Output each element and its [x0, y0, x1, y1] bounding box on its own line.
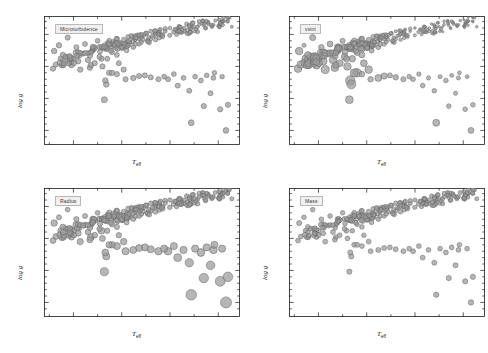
plot-area-mass: 65006000550050003.03.54.04.5: [289, 188, 485, 317]
x-axis-label-panel3: Teff: [132, 330, 141, 339]
y-axis-label-panel3: log g: [16, 266, 24, 280]
panel-label-radius: Radius: [55, 196, 81, 206]
plot-area-vsini: 65006000550050003.03.54.04.5: [289, 16, 485, 145]
y-axis-label-panel1: log g: [16, 94, 24, 108]
figure-scatter-grid: 65006000550050003.03.54.04.5 Microturbul…: [0, 0, 488, 353]
panel-mass: 65006000550050003.03.54.04.5 Mass: [289, 188, 485, 317]
plot-area-microturbulence: 65006000550050003.03.54.04.5: [44, 16, 240, 145]
panel-microturbulence: 65006000550050003.03.54.04.5 Microturbul…: [44, 16, 240, 145]
panel-radius: 65006000550050003.03.54.04.5 Radius: [44, 188, 240, 317]
panel-vsini: 65006000550050003.03.54.04.5 vsini: [289, 16, 485, 145]
y-axis-label-panel2: log g: [261, 94, 269, 108]
panel-label-vsini: vsini: [300, 24, 321, 34]
x-axis-label-panel1: Teff: [132, 158, 141, 167]
panel-label-mass: Mass: [300, 196, 323, 206]
x-axis-label-panel4: Teff: [377, 330, 386, 339]
plot-area-radius: 65006000550050003.03.54.04.5: [44, 188, 240, 317]
y-axis-label-panel4: log g: [261, 266, 269, 280]
x-axis-label-panel2: Teff: [377, 158, 386, 167]
panel-label-microturbulence: Microturbulence: [55, 24, 103, 34]
